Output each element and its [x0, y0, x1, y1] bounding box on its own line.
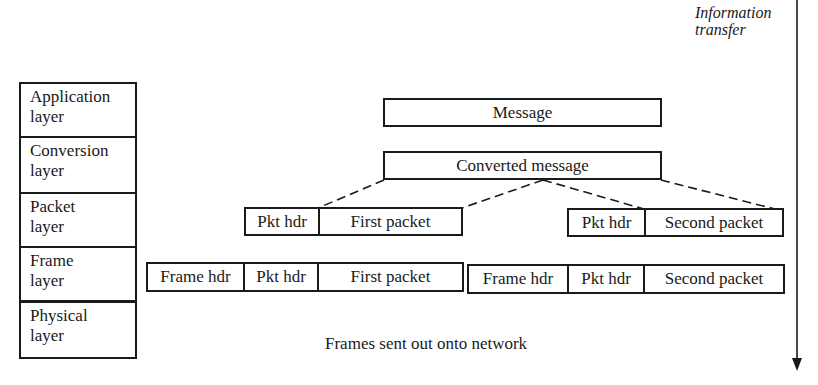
dashed-connector	[462, 180, 543, 208]
dashed-connector	[661, 180, 775, 209]
dashed-connector	[318, 180, 384, 208]
down-arrow-icon	[792, 358, 802, 371]
dashed-connector	[543, 180, 644, 209]
connectors-overlay	[0, 0, 818, 385]
